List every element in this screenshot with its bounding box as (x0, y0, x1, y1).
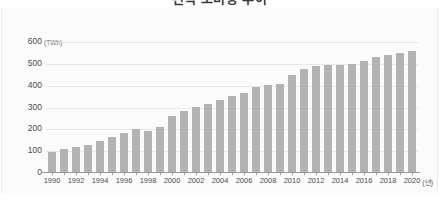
bar-slot (106, 41, 118, 172)
bar (120, 133, 127, 172)
x-axis-tick (88, 172, 89, 175)
x-axis-tick (352, 172, 353, 175)
bar-slot (406, 41, 418, 172)
x-axis-tick (244, 172, 245, 175)
x-axis-tick (196, 172, 197, 175)
bar-slot (154, 41, 166, 172)
bar (48, 152, 55, 172)
x-axis-tick (376, 172, 377, 175)
bar-slot (298, 41, 310, 172)
bar (276, 84, 283, 172)
x-axis-tick (280, 172, 281, 175)
bar (288, 75, 295, 172)
bar-slot (346, 41, 358, 172)
bar-slot (118, 41, 130, 172)
bar-slot (334, 41, 346, 172)
bar (132, 129, 139, 172)
bar-slot (262, 41, 274, 172)
bar-slot (286, 41, 298, 172)
chart-panel: 600(TWh)5004003002001000 (년) 19901992199… (1, 8, 438, 193)
x-axis-tick (232, 172, 233, 175)
bar (180, 111, 187, 172)
bar (300, 69, 307, 172)
bar-slot (178, 41, 190, 172)
x-axis-tick (76, 172, 77, 175)
x-axis-tick (364, 172, 365, 175)
x-axis-tick (316, 172, 317, 175)
bar (108, 137, 115, 172)
x-axis-tick (388, 172, 389, 175)
y-axis-labels: 600(TWh)5004003002001000 (2, 41, 42, 173)
bar-slot (166, 41, 178, 172)
bar-slot (394, 41, 406, 172)
bar-slot (142, 41, 154, 172)
x-axis-labels: (년) 199019921994199619982000200220042006… (2, 177, 439, 191)
bar (384, 55, 391, 172)
y-axis-tick-label: 500 (28, 59, 42, 68)
bar-slot (238, 41, 250, 172)
bar (360, 61, 367, 172)
x-axis-tick (304, 172, 305, 175)
bar (60, 149, 67, 172)
bar-slot (274, 41, 286, 172)
bar-slot (310, 41, 322, 172)
bar-slot (190, 41, 202, 172)
x-axis-tick (208, 172, 209, 175)
x-axis-tick (112, 172, 113, 175)
x-axis-tick (256, 172, 257, 175)
x-axis-tick (100, 172, 101, 175)
bar (96, 141, 103, 172)
x-axis-tick (136, 172, 137, 175)
chart-title-strip: 전력 소비량 추이 (0, 0, 439, 8)
bar-slot (70, 41, 82, 172)
y-axis-tick-label: 200 (28, 124, 42, 133)
bar (252, 87, 259, 172)
bar (168, 116, 175, 172)
bar-slot (58, 41, 70, 172)
bar (324, 65, 331, 172)
y-axis-tick-label: 400 (28, 81, 42, 90)
bar-slot (226, 41, 238, 172)
y-axis-tick-label: 300 (28, 103, 42, 112)
x-axis-tick (220, 172, 221, 175)
y-axis-tick-label: 600 (28, 37, 42, 46)
x-axis-tick (328, 172, 329, 175)
bar-slot (82, 41, 94, 172)
bar-slot (214, 41, 226, 172)
bar (228, 96, 235, 172)
x-axis-tick-label: 2020 (398, 177, 426, 185)
bar (72, 147, 79, 172)
bar (240, 93, 247, 172)
bar (156, 127, 163, 172)
bar (192, 107, 199, 172)
x-axis-tick (64, 172, 65, 175)
x-axis-tick (268, 172, 269, 175)
bar-slot (250, 41, 262, 172)
chart-root: 전력 소비량 추이 600(TWh)5004003002001000 (년) 1… (0, 0, 439, 204)
x-axis-tick (292, 172, 293, 175)
bar (336, 65, 343, 172)
bar-slot (382, 41, 394, 172)
bar (216, 100, 223, 172)
bar-slot (370, 41, 382, 172)
bar (408, 51, 415, 172)
page-title: 전력 소비량 추이 (0, 0, 439, 7)
x-axis-tick (400, 172, 401, 175)
x-axis-tick (412, 172, 413, 175)
bar-slot (202, 41, 214, 172)
x-axis-tick (172, 172, 173, 175)
x-axis-tick (160, 172, 161, 175)
bar (84, 145, 91, 172)
bar-slot (46, 41, 58, 172)
bar-slot (358, 41, 370, 172)
x-axis-tick (124, 172, 125, 175)
bar (348, 64, 355, 172)
bar-series (46, 41, 418, 172)
bar-slot (130, 41, 142, 172)
bar (312, 66, 319, 172)
bar (264, 85, 271, 172)
x-axis-tick (148, 172, 149, 175)
bar-slot (322, 41, 334, 172)
bar (144, 131, 151, 172)
bar (396, 53, 403, 172)
